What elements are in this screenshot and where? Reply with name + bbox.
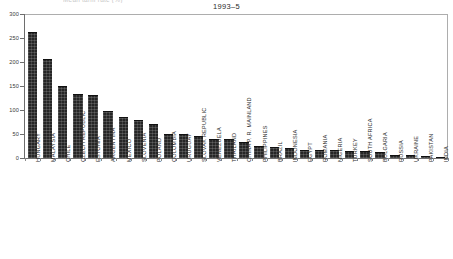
y-axis-tick-label: 200: [0, 59, 19, 65]
x-axis-category-label: NIGERIA: [337, 138, 343, 162]
bar-slot: [300, 14, 309, 158]
x-axis-category-label: MALAYSIA: [50, 133, 56, 162]
x-axis-category-label: EGYPT: [307, 142, 313, 162]
bar-slot: [330, 14, 339, 158]
x-axis-tick: [25, 158, 26, 161]
bar-slot: [345, 14, 354, 158]
x-axis-category-label: UKRAINE: [413, 136, 419, 162]
x-axis-category-label: THAILAND: [231, 133, 237, 162]
x-axis-category-label: PAKISTAN: [428, 134, 434, 162]
x-axis-category-label: CHILE: [65, 145, 71, 162]
x-axis-category-label: TURKEY: [352, 138, 358, 162]
chart-title: 1993–5: [0, 2, 453, 11]
y-axis-tick-label: 150: [0, 83, 19, 89]
bar-slot: [149, 14, 158, 158]
x-axis-category-label: INDIA: [443, 146, 449, 162]
bar-slot: [58, 14, 67, 158]
x-axis-category-label: INDONESIA: [292, 129, 298, 162]
chart-figure: Mean tariff rate (%) 1993–5 050100150200…: [0, 0, 453, 259]
x-axis-category-label: COLOMBIA: [171, 131, 177, 162]
x-axis-category-label: HUNGARY: [35, 133, 41, 162]
y-axis-tick-label: 300: [0, 11, 19, 17]
x-axis-category-label: CHINA P. R. MAINLAND: [246, 97, 252, 162]
x-axis-category-label: BULGARIA: [382, 132, 388, 162]
y-axis-tick-label: 0: [0, 155, 19, 161]
x-axis-category-label: RUSSIA: [398, 140, 404, 162]
x-axis-category-label: ARGENTINA: [110, 128, 116, 162]
x-axis-category-label: VENEZUELA: [216, 127, 222, 162]
x-axis-category-label: SLOVAK REPUBLIC: [201, 108, 207, 162]
x-axis-category-label: PHILIPPINES: [262, 125, 268, 162]
x-axis-category-label: ESTONIA: [95, 136, 101, 162]
x-axis-category-label: CZECH REPUBLIC: [80, 111, 86, 162]
x-axis-category-label: ROMANIA: [322, 135, 328, 162]
x-axis-category-label: BRAZIL: [277, 141, 283, 162]
y-axis-tick-label: 50: [0, 131, 19, 137]
x-axis-category-label: SLOVENIA: [141, 132, 147, 162]
y-axis-tick-label: 100: [0, 107, 19, 113]
x-axis-category-label: MEXICO: [126, 139, 132, 162]
bar-slot: [119, 14, 128, 158]
bar-slot: [436, 14, 445, 158]
x-axis-category-label: POLAND: [156, 138, 162, 162]
x-axis-labels: HUNGARYMALAYSIACHILECZECH REPUBLICESTONI…: [25, 162, 448, 258]
x-axis-category-label: URUGUAY: [186, 133, 192, 162]
y-axis-tick-label: 250: [0, 35, 19, 41]
bar-slot: [390, 14, 399, 158]
x-axis-category-label: SOUTH AFRICA: [367, 118, 373, 162]
bar-slot: [270, 14, 279, 158]
